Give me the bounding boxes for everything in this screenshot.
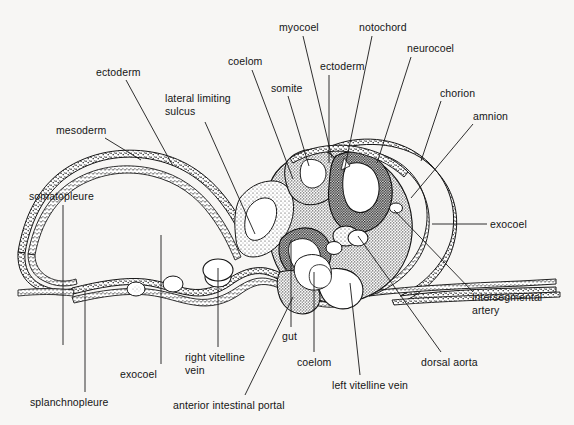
- membrane-tail-left: [18, 289, 74, 297]
- label-anterior-intestinal-portal: anterior intestinal portal: [173, 399, 285, 412]
- label-somatopleure: somatopleure: [29, 190, 94, 203]
- label-right-vitelline-vein: right vitelline vein: [185, 351, 245, 376]
- label-amnion: amnion: [473, 110, 508, 123]
- leader-myocoel: [303, 36, 332, 158]
- label-intersegmental-artery: intersegmental artery: [472, 291, 542, 316]
- label-splanchnopleure: splanchnopleure: [30, 396, 109, 409]
- label-neurocoel: neurocoel: [407, 42, 454, 55]
- label-lateral-limiting-sulcus: lateral limiting sulcus: [165, 92, 231, 117]
- embryo-illustration-svg: [0, 0, 574, 425]
- label-somite: somite: [271, 82, 303, 95]
- label-coelom-bottom: coelom: [297, 356, 331, 369]
- label-exocoel-right: exocoel: [490, 218, 527, 231]
- label-coelom-top: coelom: [228, 55, 262, 68]
- leader-anterior-intestinal-portal: [245, 297, 293, 395]
- label-exocoel-left: exocoel: [120, 368, 157, 381]
- label-dorsal-aorta: dorsal aorta: [421, 356, 478, 369]
- label-ectoderm-left: ectoderm: [96, 66, 141, 79]
- label-myocoel: myocoel: [279, 21, 319, 34]
- leader-chorion: [421, 101, 441, 161]
- somatopleure-arch: [18, 150, 255, 260]
- neural-tube: [329, 152, 393, 233]
- embryo-section-figure: ectodermlateral limiting sulcusmesoderms…: [0, 0, 574, 425]
- label-left-vitelline-vein: left vitelline vein: [332, 379, 408, 392]
- label-ectoderm-top: ectoderm: [320, 60, 365, 73]
- label-chorion: chorion: [440, 87, 475, 100]
- label-mesoderm: mesoderm: [56, 124, 106, 137]
- label-notochord: notochord: [359, 21, 407, 34]
- label-gut: gut: [282, 330, 297, 343]
